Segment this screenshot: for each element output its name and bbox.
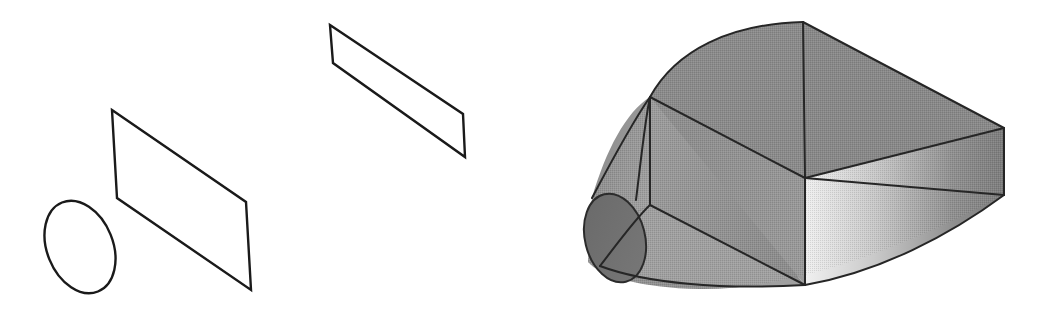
figure-root: Loft profile sections and resulting loft… — [0, 0, 1052, 319]
lofted-solid-group — [575, 22, 1004, 289]
large-parallelogram-profile — [112, 110, 251, 290]
narrow-parallelogram-profile — [330, 25, 465, 157]
figure-canvas — [0, 0, 1052, 319]
profile-sections-group — [31, 25, 465, 304]
ellipse-profile — [31, 190, 128, 304]
